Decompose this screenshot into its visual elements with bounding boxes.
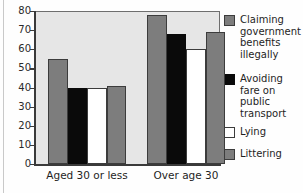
- y-tick-label: 50: [11, 63, 31, 73]
- y-tick-label: 80: [11, 6, 31, 16]
- y-tick-mark: [30, 30, 34, 31]
- bar: [48, 59, 68, 164]
- bar: [206, 32, 226, 164]
- page-edge-rule: [3, 0, 4, 193]
- y-tick-label: 0: [11, 159, 31, 169]
- bar: [68, 88, 88, 165]
- bar: [107, 86, 127, 164]
- bar: [87, 88, 107, 165]
- legend-item: Lying: [224, 126, 266, 138]
- bar-chart-figure: 01020304050607080 Aged 30 or lessOver ag…: [0, 0, 303, 193]
- y-tick-mark: [30, 88, 34, 89]
- legend-item: Avoiding fare on public transport: [224, 73, 286, 119]
- axes: Aged 30 or lessOver age 30: [35, 11, 220, 164]
- legend-swatch-icon: [224, 127, 235, 138]
- x-axis-line: [34, 164, 221, 166]
- legend-swatch-icon: [224, 149, 235, 160]
- bar: [186, 49, 206, 164]
- y-axis-tick-labels: 01020304050607080: [11, 11, 31, 164]
- legend-swatch-icon: [224, 74, 235, 85]
- x-tick-label: Aged 30 or less: [37, 169, 137, 181]
- y-tick-mark: [30, 145, 34, 146]
- legend-item: Claiming government benefits illegally: [224, 14, 301, 60]
- legend-label: Avoiding fare on public transport: [240, 73, 286, 119]
- y-tick-label: 10: [11, 140, 31, 150]
- legend-label: Littering: [240, 148, 282, 160]
- y-axis-line: [34, 11, 36, 164]
- y-tick-mark: [30, 107, 34, 108]
- y-tick-mark: [30, 49, 34, 50]
- y-tick-label: 30: [11, 102, 31, 112]
- y-tick-label: 70: [11, 25, 31, 35]
- legend-swatch-icon: [224, 15, 235, 26]
- y-tick-label: 20: [11, 121, 31, 131]
- y-tick-mark: [30, 164, 34, 165]
- y-tick-label: 40: [11, 83, 31, 93]
- y-tick-mark: [30, 126, 34, 127]
- plot-area: 01020304050607080 Aged 30 or lessOver ag…: [11, 11, 220, 171]
- bar: [147, 15, 167, 164]
- legend-label: Lying: [240, 126, 266, 138]
- legend-item: Littering: [224, 148, 282, 160]
- y-tick-mark: [30, 11, 34, 12]
- y-tick-mark: [30, 68, 34, 69]
- y-tick-label: 60: [11, 44, 31, 54]
- x-tick-label: Over age 30: [136, 169, 236, 181]
- legend-label: Claiming government benefits illegally: [240, 14, 301, 60]
- bar: [167, 34, 187, 164]
